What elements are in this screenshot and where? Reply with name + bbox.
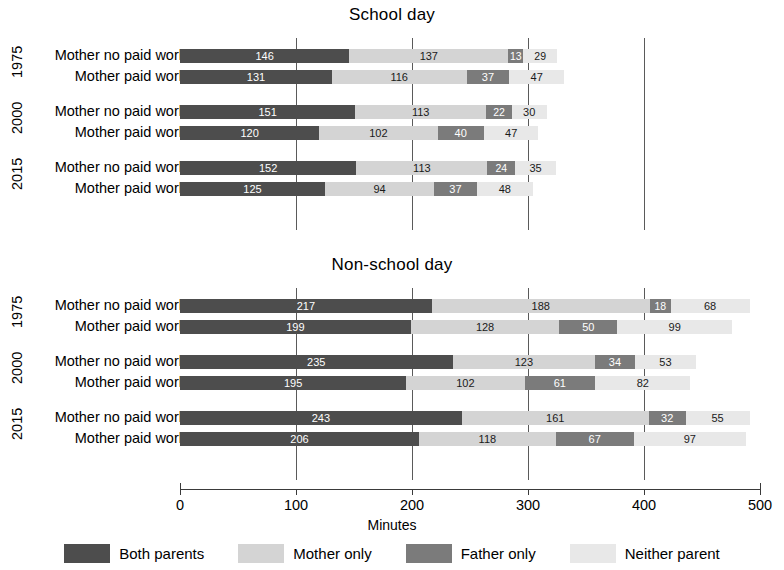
bar-segment-neither[interactable]: 47 <box>509 70 564 84</box>
bar-segment-mother[interactable]: 123 <box>453 355 596 369</box>
year-group-label: 1975 <box>6 59 28 75</box>
stacked-bar[interactable]: 2351233453 <box>180 355 696 369</box>
bar-segment-mother[interactable]: 118 <box>419 432 556 446</box>
bar-segment-father[interactable]: 32 <box>649 411 686 425</box>
bar-segment-father[interactable]: 50 <box>559 320 617 334</box>
bar-segment-both[interactable]: 120 <box>180 126 319 140</box>
bar-segment-mother[interactable]: 113 <box>356 161 487 175</box>
bar-segment-neither[interactable]: 29 <box>523 49 557 63</box>
stacked-bar[interactable]: 1311163747 <box>180 70 564 84</box>
bar-segment-father[interactable]: 22 <box>486 105 512 119</box>
stacked-bar[interactable]: 2171881868 <box>180 299 750 313</box>
bar-segment-both[interactable]: 146 <box>180 49 349 63</box>
bar-segment-value: 206 <box>290 434 308 445</box>
bar-segment-father[interactable]: 24 <box>487 161 515 175</box>
legend-swatch <box>570 544 616 563</box>
x-axis-endcap-500 <box>760 483 761 489</box>
bar-segment-father[interactable]: 61 <box>525 376 596 390</box>
legend-label: Mother only <box>293 545 371 562</box>
bar-row: Mother no paid work1511132230 <box>0 102 784 121</box>
stacked-bar[interactable]: 2061186797 <box>180 432 746 446</box>
legend-item[interactable]: Neither parent <box>570 544 720 563</box>
bar-segment-mother[interactable]: 94 <box>325 182 434 196</box>
bar-segment-mother[interactable]: 102 <box>319 126 437 140</box>
bar-row: Mother paid work1311163747 <box>0 67 784 86</box>
bar-row: Mother no paid work1461371329 <box>0 46 784 65</box>
bar-segment-value: 67 <box>589 434 601 445</box>
x-tick-label-0: 0 <box>150 497 210 513</box>
bar-segment-neither[interactable]: 99 <box>617 320 732 334</box>
bar-segment-neither[interactable]: 55 <box>686 411 750 425</box>
bar-segment-neither[interactable]: 47 <box>484 126 539 140</box>
bar-segment-value: 13 <box>510 51 522 62</box>
bar-segment-neither[interactable]: 82 <box>595 376 690 390</box>
x-tick-400 <box>644 489 645 495</box>
x-axis-title: Minutes <box>0 517 784 533</box>
bar-segment-value: 199 <box>286 322 304 333</box>
bar-segment-value: 217 <box>297 301 315 312</box>
stacked-bar[interactable]: 125943748 <box>180 182 533 196</box>
stacked-bar[interactable]: 1951026182 <box>180 376 690 390</box>
bar-segment-mother[interactable]: 113 <box>355 105 486 119</box>
bar-segment-both[interactable]: 206 <box>180 432 419 446</box>
bar-segment-mother[interactable]: 188 <box>432 299 650 313</box>
stacked-bar[interactable]: 1521132435 <box>180 161 556 175</box>
bar-segment-mother[interactable]: 161 <box>462 411 649 425</box>
bar-segment-both[interactable]: 125 <box>180 182 325 196</box>
legend-swatch <box>238 544 284 563</box>
bar-segment-both[interactable]: 195 <box>180 376 406 390</box>
stacked-bar[interactable]: 2431613255 <box>180 411 750 425</box>
legend-item[interactable]: Mother only <box>238 544 371 563</box>
year-group-label: 2015 <box>6 171 28 187</box>
x-tick-100 <box>296 489 297 495</box>
bar-segment-father[interactable]: 37 <box>434 182 477 196</box>
bar-segment-mother[interactable]: 128 <box>411 320 559 334</box>
bar-segment-neither[interactable]: 97 <box>634 432 747 446</box>
bar-segment-neither[interactable]: 68 <box>671 299 750 313</box>
bar-segment-value: 123 <box>515 357 533 368</box>
bar-segment-mother[interactable]: 102 <box>406 376 524 390</box>
year-group-label: 2000 <box>6 115 28 131</box>
legend-item[interactable]: Father only <box>406 544 536 563</box>
bar-segment-value: 113 <box>412 107 430 118</box>
panel-title: Non-school day <box>0 255 784 275</box>
stacked-bar[interactable]: 1461371329 <box>180 49 557 63</box>
bar-segment-father[interactable]: 37 <box>467 70 510 84</box>
bar-segment-father[interactable]: 67 <box>556 432 634 446</box>
stacked-bar[interactable]: 1201024047 <box>180 126 538 140</box>
bar-segment-neither[interactable]: 30 <box>512 105 547 119</box>
bar-segment-value: 37 <box>449 184 461 195</box>
bar-segment-both[interactable]: 151 <box>180 105 355 119</box>
bar-segment-both[interactable]: 152 <box>180 161 356 175</box>
bar-segment-neither[interactable]: 53 <box>635 355 696 369</box>
bar-segment-neither[interactable]: 35 <box>515 161 556 175</box>
bar-segment-both[interactable]: 199 <box>180 320 411 334</box>
x-tick-label-200: 200 <box>382 497 442 513</box>
bar-segment-value: 102 <box>456 378 474 389</box>
bar-row: Mother paid work1951026182 <box>0 373 784 392</box>
bar-segment-both[interactable]: 243 <box>180 411 462 425</box>
bar-segment-value: 32 <box>661 413 673 424</box>
bar-segment-both[interactable]: 235 <box>180 355 453 369</box>
bar-segment-father[interactable]: 34 <box>595 355 634 369</box>
stacked-bar[interactable]: 1991285099 <box>180 320 732 334</box>
bar-segment-father[interactable]: 18 <box>650 299 671 313</box>
bar-row: Mother paid work1991285099 <box>0 317 784 336</box>
bar-row: Mother no paid work1521132435 <box>0 158 784 177</box>
bar-segment-mother[interactable]: 137 <box>349 49 508 63</box>
bar-segment-both[interactable]: 217 <box>180 299 432 313</box>
bar-segment-value: 22 <box>493 107 505 118</box>
legend-item[interactable]: Both parents <box>64 544 204 563</box>
year-group-label-text: 1975 <box>9 56 25 78</box>
bar-segment-mother[interactable]: 116 <box>332 70 467 84</box>
bar-segment-father[interactable]: 40 <box>438 126 484 140</box>
bar-segment-value: 34 <box>609 357 621 368</box>
year-group-label: 1975 <box>6 309 28 325</box>
bar-segment-neither[interactable]: 48 <box>477 182 533 196</box>
bar-segment-value: 128 <box>476 322 494 333</box>
bar-segment-father[interactable]: 13 <box>508 49 523 63</box>
stacked-bar[interactable]: 1511132230 <box>180 105 547 119</box>
bar-segment-value: 118 <box>479 434 497 445</box>
legend-label: Both parents <box>119 545 204 562</box>
bar-segment-both[interactable]: 131 <box>180 70 332 84</box>
